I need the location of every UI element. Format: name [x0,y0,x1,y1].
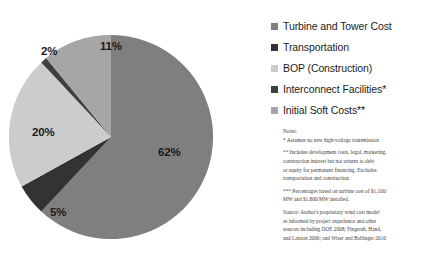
slice-value-label-transportation: 5% [50,206,66,218]
legend-item-label: Initial Soft Costs** [283,105,365,116]
slice-value-label-bop: 20% [32,126,54,138]
legend-swatch-icon [271,23,278,30]
legend-swatch-icon [271,44,278,51]
chart-legend: Turbine and Tower Cost Transportation BO… [271,21,430,126]
legend-item-label: Interconnect Facilities* [283,84,386,95]
slice-value-label-soft-costs: 11% [100,40,122,52]
notes-footnote-2-line-3: or equity for permanent financing. Exclu… [283,166,430,175]
legend-swatch-icon [271,65,278,72]
slice-value-label-interconnect: 2% [41,45,57,57]
legend-item-label: BOP (Construction) [283,63,372,74]
pie-chart-figure: 62% 11% 2% 20% 5% Turbine and Tower Cost… [0,0,430,269]
notes-footnote-1: * Assumes no new high-voltage transmissi… [283,136,430,145]
pie-chart-area: 62% 11% 2% 20% 5% [8,12,218,262]
notes-source: Source: Author's proprietary wind cost m… [283,208,430,242]
legend-item-label: Transportation [283,42,349,53]
notes-footnote-3-line-1: *** Percentages based on turbine cost of… [283,187,430,196]
notes-source-line-4: and Laxson 2006; and Wiser and Bollinger… [283,234,430,243]
notes-footnote-2-line-2: construction interest but not returns to… [283,157,430,166]
legend-item-initial-soft-costs[interactable]: Initial Soft Costs** [271,105,430,116]
notes-footnote-2: ** Includes development costs, legal, ma… [283,148,430,182]
notes-footnote-3-line-2: MW and $1,800/MW installed. [283,195,430,204]
legend-item-bop-construction[interactable]: BOP (Construction) [271,63,430,74]
legend-item-label: Turbine and Tower Cost [283,21,392,32]
notes-footnote-2-line-1: ** Includes development costs, legal, ma… [283,148,430,157]
notes-heading: Notes: [283,127,430,136]
legend-item-transportation[interactable]: Transportation [271,42,430,53]
chart-notes: Notes: * Assumes no new high-voltage tra… [283,127,430,247]
legend-swatch-icon [271,107,278,114]
notes-footnote-2-line-4: transportation and construction [283,174,430,183]
legend-swatch-icon [271,86,278,93]
notes-source-line-2: as informed by project experience and ot… [283,217,430,226]
slice-value-label-turbine: 62% [158,146,180,158]
legend-item-turbine-and-tower-cost[interactable]: Turbine and Tower Cost [271,21,430,32]
legend-item-interconnect-facilities[interactable]: Interconnect Facilities* [271,84,430,95]
notes-source-line-3: sources including DOE 2008; Fingersh, Ha… [283,225,430,234]
notes-heading-block: Notes: * Assumes no new high-voltage tra… [283,127,430,144]
notes-source-line-1: Source: Author's proprietary wind cost m… [283,208,430,217]
notes-footnote-3: *** Percentages based on turbine cost of… [283,187,430,204]
